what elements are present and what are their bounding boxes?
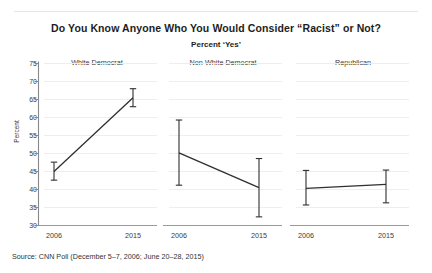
plot-area <box>0 0 432 273</box>
source-note: Source: CNN Poll (December 5–7, 2006; Ju… <box>12 252 204 261</box>
series-white-democrat <box>51 89 136 180</box>
series-republican <box>303 170 389 205</box>
series-non-white-democrat <box>176 120 262 217</box>
chart-figure: Do You Know Anyone Who You Would Conside… <box>0 0 432 273</box>
